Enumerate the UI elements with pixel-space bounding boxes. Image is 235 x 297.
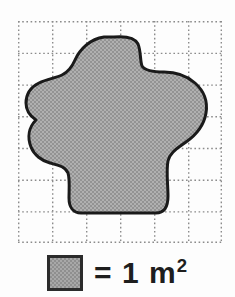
irregular-shape: [18, 21, 222, 243]
legend-exponent: 2: [177, 255, 188, 276]
legend-label: = 1 m2: [94, 258, 188, 288]
legend-unit: m: [149, 256, 177, 289]
legend-value: 1: [122, 256, 140, 289]
legend: = 1 m2: [0, 249, 235, 297]
gray-square-swatch: [47, 255, 83, 291]
grid-region: Each grid square represents 1 square met…: [18, 21, 222, 243]
figure-canvas: Each grid square represents 1 square met…: [0, 0, 235, 297]
legend-equals-sign: =: [94, 256, 113, 289]
